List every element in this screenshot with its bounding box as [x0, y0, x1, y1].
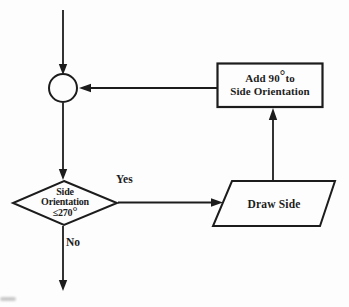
add-box-label: Add 90°to Side Orientation — [217, 63, 323, 107]
decision-label: Side Orientation ≤270° — [15, 186, 115, 219]
yes-edge-label: Yes — [116, 173, 133, 185]
flowchart-canvas: Add 90°to Side Orientation Side Orientat… — [0, 0, 349, 307]
scan-artifact-smudge — [0, 297, 16, 301]
add-box-line1: Add 90°to — [245, 72, 295, 85]
arrowhead-up-icon — [269, 108, 277, 120]
decision-line3: ≤270° — [53, 208, 78, 219]
connector-circle-node — [49, 74, 77, 102]
edge-addbox-to-connector — [79, 84, 217, 92]
draw-side-text: Draw Side — [247, 198, 300, 210]
arrowhead-left-icon — [79, 84, 91, 92]
add-box-line2: Side Orientation — [230, 85, 310, 98]
edge-entry-to-connector — [59, 10, 67, 75]
degree-symbol: ° — [72, 203, 77, 217]
no-edge-label: No — [66, 236, 80, 248]
decision-condition-text: ≤270 — [53, 207, 73, 218]
flowchart-graphics — [0, 0, 349, 307]
draw-side-label: Draw Side — [222, 181, 326, 226]
add-box-line1-text: Add 90 — [245, 72, 280, 84]
edge-drawside-to-addbox — [269, 108, 277, 181]
edge-decision-yes-to-drawside — [118, 198, 223, 206]
edge-connector-to-decision — [59, 103, 67, 180]
add-box-line1-suffix: to — [285, 72, 294, 84]
arrowhead-down-icon — [59, 169, 67, 180]
arrowhead-down-icon — [59, 280, 67, 291]
